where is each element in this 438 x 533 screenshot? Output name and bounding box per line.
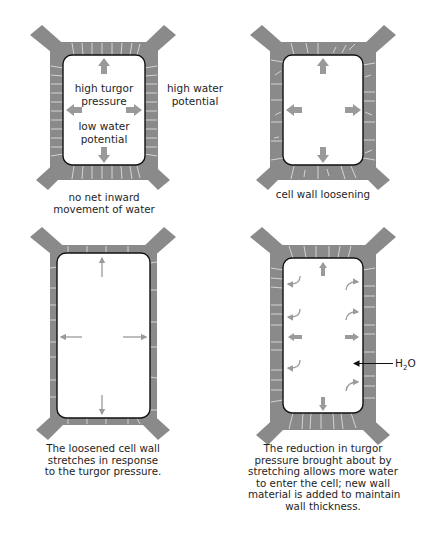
caption-line: movement of water xyxy=(44,204,164,216)
label-line: potential xyxy=(163,95,227,108)
h2o-tail: O xyxy=(407,357,415,369)
h2o-base: H xyxy=(395,357,403,369)
caption-panel-2: cell wall loosening xyxy=(263,189,383,201)
label-h2o: H2O xyxy=(395,357,425,375)
label-low-water-potential: low water potential xyxy=(64,120,144,145)
caption-panel-1: no net inward movement of water xyxy=(44,192,164,215)
panel-3-cell xyxy=(30,227,176,440)
caption-line: no net inward xyxy=(44,192,164,204)
panel-4-cell xyxy=(250,227,396,445)
caption-line: wall thickness. xyxy=(248,501,398,513)
caption-line: The loosened cell wall xyxy=(38,443,168,455)
label-line: high water xyxy=(163,82,227,95)
caption-panel-3: The loosened cell wall stretches in resp… xyxy=(38,443,168,478)
panel-1-cell xyxy=(30,25,176,190)
caption-panel-4: The reduction in turgor pressure brought… xyxy=(248,443,398,513)
caption-line: cell wall loosening xyxy=(263,189,383,201)
label-line: high turgor xyxy=(64,82,144,95)
caption-line: The reduction in turgor xyxy=(248,443,398,455)
label-line: potential xyxy=(64,133,144,146)
panel-2-cell xyxy=(250,25,396,190)
label-high-turgor-pressure: high turgor pressure xyxy=(64,82,144,107)
label-high-water-potential: high water potential xyxy=(163,82,227,107)
cell-membrane xyxy=(57,253,150,418)
caption-line: to the turgor pressure. xyxy=(38,466,168,478)
label-line: pressure xyxy=(64,95,144,108)
label-line: low water xyxy=(64,120,144,133)
